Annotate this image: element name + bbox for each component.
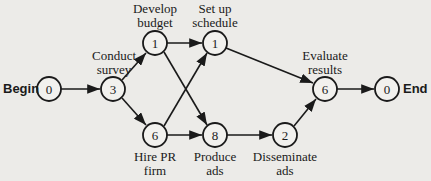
label-disseminate: Disseminate ads (245, 150, 325, 178)
edge-disseminate-evaluate (294, 99, 316, 126)
edge-survey-pr (122, 98, 146, 125)
duration-pr: 6 (152, 128, 159, 143)
label-evaluate: Evaluate results (295, 49, 355, 77)
activity-network-diagram: 0 3 1 6 1 8 2 6 0 Begin End Conduct surv… (0, 0, 431, 181)
duration-disseminate: 2 (282, 128, 289, 143)
label-schedule: Set up schedule (185, 2, 245, 30)
end-label: End (403, 81, 428, 96)
duration-end: 0 (384, 82, 391, 97)
label-budget: Develop budget (125, 2, 185, 30)
duration-schedule: 1 (212, 36, 219, 51)
duration-produce: 8 (212, 128, 219, 143)
duration-evaluate: 6 (322, 82, 329, 97)
label-survey: Conduct survey (84, 49, 144, 77)
duration-survey: 3 (110, 82, 117, 97)
begin-label: Begin (3, 81, 39, 96)
label-produce: Produce ads (185, 150, 245, 178)
duration-budget: 1 (152, 36, 159, 51)
duration-begin: 0 (46, 82, 53, 97)
label-pr: Hire PR firm (125, 150, 185, 178)
